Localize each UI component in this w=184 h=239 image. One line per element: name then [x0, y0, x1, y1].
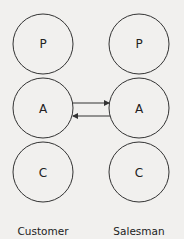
customer-child-label: C: [39, 166, 47, 180]
salesman-child-label: C: [135, 166, 143, 180]
transactional-analysis-diagram: P A C Customer P A C Salesman: [0, 0, 184, 239]
customer-column: P A C Customer: [13, 14, 73, 237]
customer-parent-label: P: [39, 37, 46, 51]
salesman-caption: Salesman: [113, 225, 164, 237]
salesman-column: P A C Salesman: [109, 14, 169, 237]
salesman-adult-label: A: [135, 102, 144, 116]
customer-caption: Customer: [17, 225, 69, 237]
customer-adult-label: A: [39, 102, 48, 116]
salesman-parent-label: P: [135, 37, 142, 51]
